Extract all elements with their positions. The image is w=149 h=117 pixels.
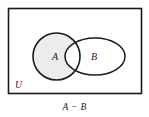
figure-caption: A − B <box>61 102 86 112</box>
venn-diagram-figure: A B U A − B <box>0 0 149 117</box>
universal-set-label: U <box>15 80 23 90</box>
venn-diagram-svg: A B U A − B <box>0 0 149 117</box>
set-a-label: A <box>51 51 59 62</box>
set-b-label: B <box>91 51 97 62</box>
